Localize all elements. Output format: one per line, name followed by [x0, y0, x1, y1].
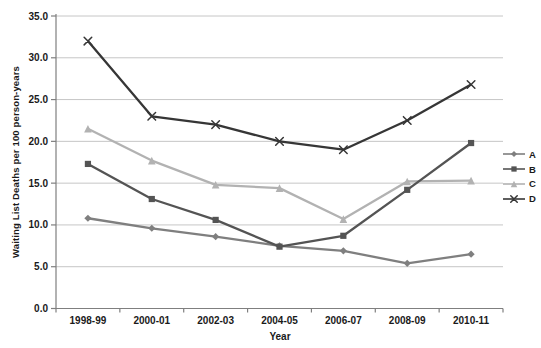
data-point-A-6	[467, 251, 474, 258]
legend-item-a: A	[502, 147, 536, 162]
data-point-B-3	[276, 244, 282, 250]
x-tick-label: 2002-03	[197, 315, 234, 326]
legend: A B C D	[502, 147, 536, 206]
x-tick-label: 2006-07	[325, 315, 362, 326]
x-tick-label: 1998-99	[70, 315, 107, 326]
x-tick-label: 2000-01	[133, 315, 170, 326]
data-point-C-0	[84, 125, 92, 133]
legend-item-b: B	[502, 162, 536, 177]
data-point-A-5	[404, 260, 411, 267]
data-point-B-0	[85, 161, 91, 167]
y-tick-label: 0.0	[34, 303, 48, 314]
y-tick-label: 5.0	[34, 261, 48, 272]
legend-marker	[511, 151, 517, 157]
legend-key-diamond-icon	[502, 149, 526, 159]
y-tick-label: 20.0	[29, 136, 49, 147]
line-chart: 0.05.010.015.020.025.030.035.01998-99200…	[0, 0, 541, 348]
x-tick-label: 2010-11	[453, 315, 490, 326]
legend-label: A	[529, 149, 536, 160]
legend-item-d: D	[502, 191, 536, 206]
legend-label: C	[529, 178, 536, 189]
legend-marker	[511, 167, 516, 172]
data-point-B-5	[404, 187, 410, 193]
y-tick-label: 25.0	[29, 94, 49, 105]
data-point-B-4	[340, 233, 346, 239]
data-point-B-2	[213, 217, 219, 223]
y-tick-label: 15.0	[29, 178, 49, 189]
plot-area: 0.05.010.015.020.025.030.035.01998-99200…	[0, 0, 541, 348]
y-tick-label: 10.0	[29, 219, 49, 230]
y-tick-label: 30.0	[29, 52, 49, 63]
data-point-A-1	[148, 225, 155, 232]
data-point-D-6	[467, 81, 475, 89]
data-point-D-0	[84, 37, 92, 45]
y-axis-title: Waiting List Deaths per 100 person-years	[10, 66, 21, 258]
legend-item-c: C	[502, 177, 536, 192]
data-point-A-4	[340, 247, 347, 254]
x-tick-label: 2004-05	[261, 315, 298, 326]
y-tick-label: 35.0	[29, 11, 49, 22]
legend-key-triangle-icon	[502, 179, 526, 189]
data-point-A-0	[84, 215, 91, 222]
data-point-A-2	[212, 233, 219, 240]
x-tick-label: 2008-09	[389, 315, 426, 326]
data-point-B-1	[149, 196, 155, 202]
legend-label: B	[529, 164, 536, 175]
legend-key-square-icon	[502, 164, 526, 174]
x-axis-title: Year	[269, 331, 290, 342]
legend-key-x-icon	[502, 194, 526, 204]
data-point-B-6	[468, 140, 474, 146]
legend-label: D	[529, 193, 536, 204]
